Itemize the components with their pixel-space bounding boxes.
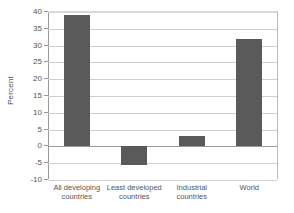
bar-chart: Percent 4035302520151050-5-10 All develo… [0,0,294,213]
x-tick-label-line1: World [240,183,259,192]
bar [121,146,147,164]
y-tick-label: 5 [2,124,42,133]
y-tick-label: 35 [2,23,42,32]
y-tick-label: 20 [2,74,42,83]
gridline [48,163,277,164]
gridline [48,180,277,181]
y-tick-label: 40 [2,7,42,16]
x-tick-label-line1: All developing [53,183,100,192]
bar [236,39,262,147]
bar [64,15,90,146]
bar [179,136,205,147]
gridline [48,146,277,147]
y-tick-label: -5 [2,158,42,167]
y-tick-label: 30 [2,40,42,49]
y-tick-label: 15 [2,91,42,100]
x-tick-label: World [209,183,289,192]
y-tick-label: 0 [2,141,42,150]
y-tick-label: 10 [2,107,42,116]
x-tick-label-line2: countries [152,192,232,201]
plot-area [48,11,278,179]
x-tick-label-line1: Industrial [177,183,207,192]
y-tick-label: 25 [2,57,42,66]
gridline [48,12,277,13]
